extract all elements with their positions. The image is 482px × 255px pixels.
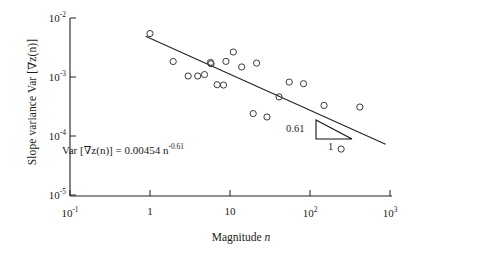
fit-equation-body: Var [∇z(n)] = 0.00454 n xyxy=(62,144,168,156)
scatter-markers xyxy=(147,30,363,152)
x-tick-label: 10 xyxy=(215,205,245,217)
y-tick-label: 10-4 xyxy=(40,128,66,142)
x-axis-ticks xyxy=(70,190,390,196)
y-axis-ticks xyxy=(70,18,76,195)
data-point xyxy=(239,64,245,70)
data-point xyxy=(170,58,176,64)
data-point xyxy=(223,58,229,64)
slope-triangle xyxy=(316,120,352,139)
data-point xyxy=(264,114,270,120)
data-point xyxy=(195,73,201,79)
y-tick-label: 10-5 xyxy=(40,187,66,201)
data-point xyxy=(357,104,363,110)
fit-equation-exponent: -0.61 xyxy=(168,142,184,151)
slope-rise-label: 0.61 xyxy=(286,123,304,134)
fit-equation-annotation: Var [∇z(n)] = 0.00454 n-0.61 xyxy=(62,142,184,157)
y-tick-label: 10-3 xyxy=(40,69,66,83)
figure-root: Slope variance Var [∇z(n)] Magnitude n xyxy=(0,0,482,255)
x-tick-label: 102 xyxy=(295,205,325,219)
data-point xyxy=(220,82,226,88)
x-tick-label: 1 xyxy=(135,205,165,217)
data-point xyxy=(338,146,344,152)
slope-run-label: 1 xyxy=(328,141,333,152)
x-axis-title-text: Magnitude xyxy=(212,231,265,243)
data-point xyxy=(321,102,327,108)
data-point xyxy=(201,71,207,77)
data-point xyxy=(254,60,260,66)
x-axis-title: Magnitude n xyxy=(0,231,482,243)
data-point xyxy=(230,49,236,55)
fit-line xyxy=(146,36,386,144)
x-tick-label: 10-1 xyxy=(55,205,85,219)
data-point xyxy=(286,79,292,85)
data-point xyxy=(214,82,220,88)
y-axis-title: Slope variance Var [∇z(n)] xyxy=(25,7,39,197)
data-point xyxy=(185,73,191,79)
y-tick-label: 10-2 xyxy=(40,10,66,24)
x-axis-title-variable: n xyxy=(264,231,270,243)
data-point xyxy=(147,30,153,36)
x-tick-label: 103 xyxy=(375,205,405,219)
data-point xyxy=(250,110,256,116)
data-point xyxy=(300,81,306,87)
